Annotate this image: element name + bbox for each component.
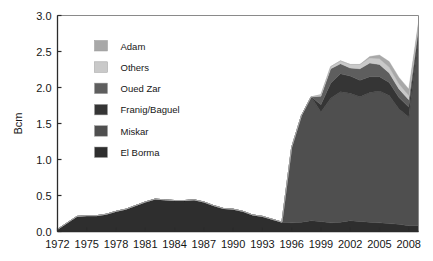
- x-tick-label: 1996: [279, 238, 303, 250]
- y-tick-label: 0.5: [36, 190, 51, 202]
- legend-swatch-miskar: [95, 126, 108, 137]
- y-axis-label: Bcm: [12, 113, 24, 135]
- x-tick-label: 1981: [133, 238, 157, 250]
- x-tick-label: 1999: [309, 238, 333, 250]
- y-tick-label: 1.0: [36, 154, 51, 166]
- legend-label-franig-baguel: Franig/Baguel: [121, 104, 180, 115]
- legend-label-adam: Adam: [121, 41, 146, 52]
- y-tick-label: 3.0: [36, 10, 51, 22]
- legend-label-oued-zar: Oued Zar: [121, 83, 161, 94]
- chart-figure: 0.00.51.01.52.02.53.0 197219751978198119…: [0, 0, 433, 261]
- x-tick-label: 1972: [45, 238, 69, 250]
- x-tick-label: 2005: [367, 238, 391, 250]
- y-tick-label: 2.5: [36, 46, 51, 58]
- x-tick-label: 1975: [75, 238, 99, 250]
- x-tick-label: 1984: [162, 238, 186, 250]
- legend-swatch-adam: [95, 41, 108, 52]
- y-tick-label: 1.5: [36, 118, 51, 130]
- legend-label-others: Others: [121, 62, 150, 73]
- legend-label-el-borma: El Borma: [121, 147, 161, 158]
- x-tick-label: 2002: [338, 238, 362, 250]
- x-tick-label: 1978: [104, 238, 128, 250]
- legend-swatch-franig-baguel: [95, 104, 108, 115]
- x-tick-label: 2008: [397, 238, 421, 250]
- legend-swatch-others: [95, 62, 108, 73]
- legend-label-miskar: Miskar: [121, 126, 149, 137]
- y-tick-label: 2.0: [36, 82, 51, 94]
- x-tick-label: 1990: [221, 238, 245, 250]
- x-tick-label: 1987: [192, 238, 216, 250]
- y-tick-label: 0.0: [36, 226, 51, 238]
- legend-swatch-el-borma: [95, 147, 108, 158]
- legend-swatch-oued-zar: [95, 83, 108, 94]
- stacked-area-chart: 0.00.51.01.52.02.53.0 197219751978198119…: [0, 0, 433, 261]
- x-tick-label: 1993: [250, 238, 274, 250]
